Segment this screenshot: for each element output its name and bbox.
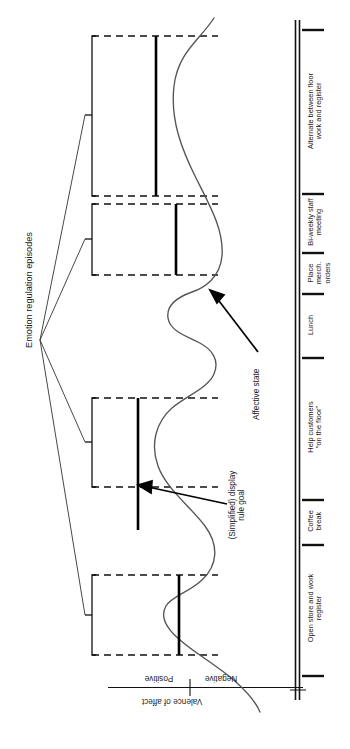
display-rule-goal-bars (138, 36, 179, 655)
segment-help-customers-line-2: “on the floor” (315, 357, 323, 497)
affective-state-arrow-shaft (216, 297, 258, 352)
segment-place-orders-line-3: orders (324, 254, 332, 292)
display-rule-goal-annotation: (Simplified) display rule goal (228, 450, 246, 560)
episode-2-bracket (92, 204, 96, 275)
episode-brackets (85, 36, 96, 655)
episode-3-bracket (92, 398, 96, 487)
y-tick-negative: Negative (196, 674, 246, 683)
timeline-segment-lunch: Lunch (307, 294, 315, 356)
episode-leader-lines (40, 115, 85, 615)
timeline-segment-alternate-floor: Alternate between floor work and registe… (307, 30, 324, 192)
goal-arrow-head (138, 481, 152, 493)
figure-vector-layer (0, 0, 350, 749)
y-axis-title: Valence of affect (137, 697, 207, 706)
episode-1-bracket (92, 36, 96, 196)
segment-coffee-break-line-2: break (315, 500, 323, 542)
timeline-segment-staff-meeting: Bi-weekly staff meeting (307, 193, 324, 251)
goal-annotation-line-1: (Simplified) display (228, 450, 237, 560)
goal-annotation-line-2: rule goal (237, 450, 246, 560)
timeline-segment-coffee-break: Coffee break (307, 500, 324, 542)
affective-state-curve (154, 18, 260, 712)
segment-staff-meeting-line-2: meeting (315, 193, 323, 251)
timeline-segment-open-store: Open store and work register (307, 544, 324, 672)
segment-open-store-line-2: register (315, 544, 323, 672)
y-tick-positive: Positive (136, 674, 182, 683)
episode-4-bracket (92, 575, 96, 655)
goal-arrow-shaft (148, 487, 227, 504)
affective-state-annotation: Affective state (252, 369, 261, 420)
affective-state-arrow-head (210, 290, 224, 303)
timeline-segment-place-orders: Place merch. orders (307, 254, 332, 292)
timeline-spine (290, 20, 306, 700)
timeline-segment-help-customers: Help customers “on the floor” (307, 357, 324, 497)
segment-alternate-floor-line-2: work and register (315, 30, 323, 192)
figure-canvas: Emotion regulation episodes Affective st… (0, 0, 350, 749)
episodes-axis-title: Emotion regulation episodes (24, 232, 34, 348)
segment-lunch-line-1: Lunch (307, 294, 315, 356)
